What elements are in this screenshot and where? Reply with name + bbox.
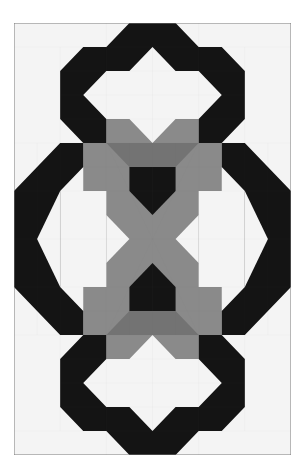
quilt-block bbox=[14, 23, 291, 455]
quilt-pattern-graphic bbox=[14, 23, 291, 455]
